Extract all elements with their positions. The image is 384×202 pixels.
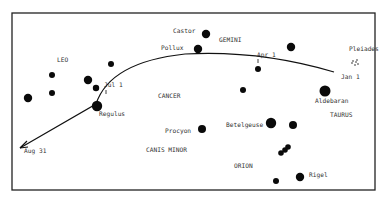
star-label-rigel: Rigel [309,171,328,179]
pleiades-star-dot [355,61,357,63]
star-aldebaran [320,86,331,97]
star-label-aldebaran: Aldebaran [315,97,349,104]
star [255,66,261,72]
star-betelgeuse [266,118,276,128]
constellation-label-canis-minor: CANIS MINOR [146,146,187,153]
star [289,121,297,129]
constellation-label-cancer: CANCER [158,92,181,99]
constellation-label-leo: LEO [57,56,68,63]
pleiades-star-dot [356,59,358,61]
star [49,90,55,96]
star-label-pleiades: Pleiades [349,45,379,52]
stars-layer [24,30,331,184]
constellation-label-gemini: GEMINI [219,36,242,43]
star [273,178,279,184]
star-rigel [296,173,304,181]
date-label-apr-1: Apr 1 [257,51,276,59]
star-label-procyon: Procyon [165,127,191,135]
star [285,144,291,150]
date-label-jan-1: Jan 1 [341,73,360,80]
star [287,43,295,51]
star-chart: CastorPolluxPleiadesAldebaranRegulusProc… [0,0,384,202]
star [93,85,99,91]
star-procyon [198,125,206,133]
pleiades-star-dot [357,63,359,65]
star-label-pollux: Pollux [161,44,184,51]
constellation-label-taurus: TAURUS [330,111,353,118]
pleiades-star-dot [354,64,356,66]
star-pollux [194,45,202,53]
star [108,61,114,67]
star [24,94,32,102]
star-label-castor: Castor [173,27,196,34]
star [240,87,246,93]
pleiades-cluster [351,59,359,66]
star-castor [202,30,210,38]
constellation-label-orion: ORION [234,162,253,169]
pleiades-star-dot [352,60,354,62]
star-label-betelgeuse: Betelgeuse [226,121,264,129]
star-label-regulus: Regulus [99,110,125,118]
star [49,72,55,78]
star [84,76,92,84]
pleiades-star-dot [351,62,353,64]
date-label-jul-1: Jul 1 [104,81,123,88]
date-label-aug-31: Aug 31 [24,147,47,155]
